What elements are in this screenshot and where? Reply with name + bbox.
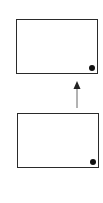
arrow-connector [0,0,103,203]
bottom-box [17,113,99,168]
dot-marker-icon [90,159,96,165]
arrow-head-icon [74,81,81,89]
